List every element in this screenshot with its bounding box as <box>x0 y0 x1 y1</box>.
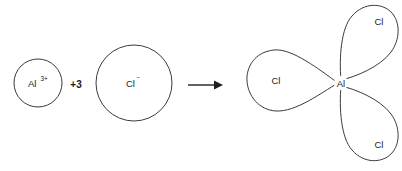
reaction-diagram: Al 3+ +3 Cl − Al Cl <box>0 0 402 171</box>
lobe-left-label: Cl <box>272 75 281 86</box>
chloride-ion-label: Cl <box>126 78 135 89</box>
aluminium-ion-group: Al 3+ <box>14 59 62 107</box>
reaction-arrow-head <box>214 81 223 90</box>
lobe-upper-right-label: Cl <box>375 16 384 27</box>
chloride-coefficient: +3 <box>70 79 82 90</box>
lobe-left <box>247 50 338 111</box>
aluminium-chloride-group: Al Cl Cl Cl <box>247 5 398 160</box>
aluminium-ion-charge: 3+ <box>41 75 49 82</box>
lobe-upper-right <box>340 5 398 80</box>
reaction-arrow <box>188 81 223 90</box>
chloride-ion-group: Cl − <box>96 45 172 121</box>
lobe-lower-right-label: Cl <box>375 139 384 150</box>
reaction-canvas: Al 3+ +3 Cl − Al Cl <box>0 0 402 171</box>
aluminium-ion-circle <box>14 59 62 107</box>
lobe-lower-right <box>340 86 398 161</box>
aluminium-ion-label: Al <box>28 78 36 89</box>
central-atom-label: Al <box>337 78 345 89</box>
chloride-ion-charge: − <box>137 74 141 81</box>
